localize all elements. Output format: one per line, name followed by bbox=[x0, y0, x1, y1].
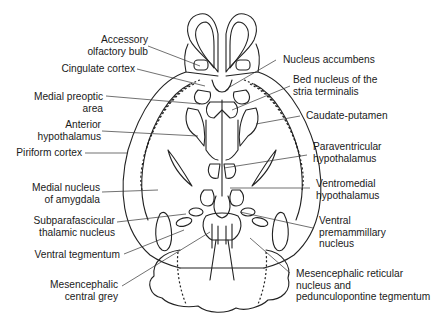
label-medial-nucleus-of-amygdala: Medial nucleus of amygdala bbox=[32, 182, 100, 205]
label-caudate-putamen: Caudate-putamen bbox=[306, 110, 388, 122]
label-bed-nucleus-stria-terminalis: Bed nucleus of the stria terminalis bbox=[293, 74, 377, 97]
label-ventral-premammillary-nucleus: Ventral premammillary nucleus bbox=[319, 215, 386, 250]
olfactory-bulbs bbox=[185, 14, 260, 76]
hindbrain-outline bbox=[150, 250, 289, 312]
brain-diagram: Accessory olfactory bulb Cingulate corte… bbox=[0, 0, 445, 319]
label-ventral-tegmentum: Ventral tegmentum bbox=[34, 249, 120, 261]
label-subparafascicular-thalamic-nucleus: Subparafascicular thalamic nucleus bbox=[33, 215, 115, 238]
label-accessory-olfactory-bulb: Accessory olfactory bulb bbox=[87, 34, 148, 57]
label-piriform-cortex: Piriform cortex bbox=[16, 147, 82, 159]
label-paraventricular-hypothalamus: Paraventricular hypothalamus bbox=[313, 141, 382, 164]
label-cingulate-cortex: Cingulate cortex bbox=[61, 63, 135, 75]
label-mesencephalic-reticular-pedunculopontine: Mesencephalic reticular nucleus and pedu… bbox=[296, 268, 430, 303]
label-nucleus-accumbens: Nucleus accumbens bbox=[283, 54, 375, 66]
label-anterior-hypothalamus: Anterior hypothalamus bbox=[38, 119, 101, 142]
label-medial-preoptic-area: Medial preoptic area bbox=[34, 91, 103, 114]
label-mesencephalic-central-grey: Mesencephalic central grey bbox=[50, 279, 118, 302]
label-ventromedial-hypothalamus: Ventromedial hypothalamus bbox=[316, 178, 379, 201]
